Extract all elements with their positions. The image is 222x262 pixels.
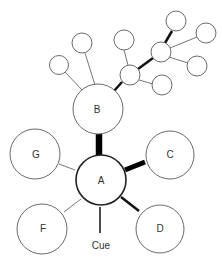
node-leaf4 xyxy=(166,11,186,31)
edge-hub1-leaf3 xyxy=(124,50,128,65)
node-b-label: B xyxy=(94,104,101,115)
node-leaf2 xyxy=(72,33,92,53)
edge-hub2-leaf6 xyxy=(169,57,188,63)
node-c: C xyxy=(146,131,194,179)
node-b: B xyxy=(73,84,123,134)
node-g-label: G xyxy=(32,149,40,160)
node-a: A xyxy=(76,155,126,205)
node-f: F xyxy=(17,204,67,254)
node-leaf7 xyxy=(152,75,172,95)
cue-label: Cue xyxy=(92,240,111,251)
node-leaf5 xyxy=(196,23,216,43)
edge-b-leaf1 xyxy=(65,72,84,92)
node-leaf1 xyxy=(50,56,69,75)
edge-hub2-leaf5 xyxy=(170,37,197,48)
edge-hub2-leaf4 xyxy=(165,31,172,43)
edge-a-f xyxy=(64,199,81,212)
edge-b-hub1 xyxy=(114,82,122,91)
edge-a-c xyxy=(125,162,145,170)
edge-a-d xyxy=(121,197,139,211)
edge-hub1-leaf7 xyxy=(139,80,153,84)
node-leaf6 xyxy=(187,56,207,76)
node-g: G xyxy=(10,129,60,179)
edge-hub1-hub2 xyxy=(138,58,153,69)
node-c-label: C xyxy=(166,149,173,160)
network-diagram: B G C A F D Cue xyxy=(0,0,222,262)
node-hub2 xyxy=(151,42,171,62)
node-leaf3 xyxy=(114,30,134,50)
node-a-label: A xyxy=(98,175,105,186)
edge-b-leaf2 xyxy=(85,53,95,85)
node-f-label: F xyxy=(40,223,46,234)
node-hub1 xyxy=(120,65,140,85)
edge-a-g xyxy=(59,164,75,170)
node-d: D xyxy=(136,205,184,253)
node-d-label: D xyxy=(156,223,163,234)
